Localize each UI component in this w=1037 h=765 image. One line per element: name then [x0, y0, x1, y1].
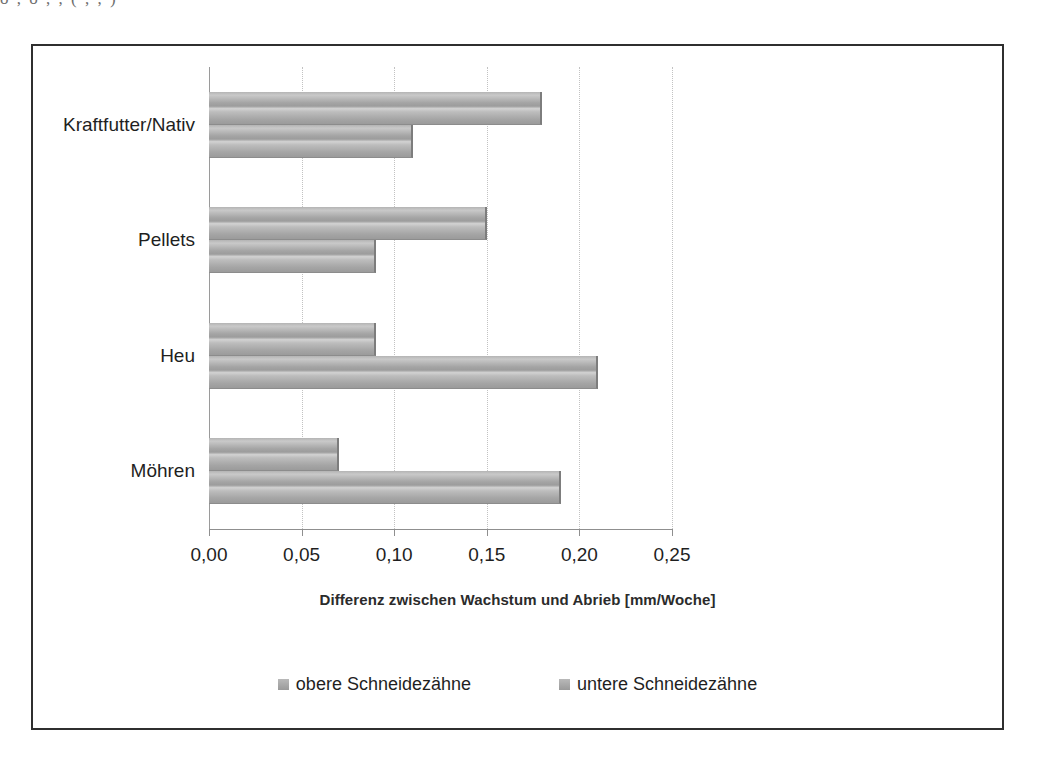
category-label: Kraftfutter/Nativ	[63, 115, 195, 134]
bar	[209, 471, 561, 504]
x-tick-mark	[672, 529, 673, 536]
bar	[209, 125, 413, 158]
scanned-page-residue: o , o , , ( , , )	[0, 0, 1037, 26]
x-tick-mark	[579, 529, 580, 536]
bar	[209, 207, 487, 240]
x-tick-mark	[209, 529, 210, 536]
legend-label: untere Schneidezähne	[577, 674, 757, 695]
x-tick-label: 0,20	[561, 544, 598, 566]
chart-legend: obere Schneidezähneuntere Schneidezähne	[33, 674, 1002, 695]
residue-text: o , o , , ( , , )	[0, 0, 118, 9]
x-tick-mark	[487, 529, 488, 536]
x-tick-label: 0,00	[191, 544, 228, 566]
bar	[209, 438, 339, 471]
category-label: Heu	[160, 346, 195, 365]
category-label: Pellets	[138, 230, 195, 249]
x-tick-mark	[302, 529, 303, 536]
legend-swatch-icon	[278, 679, 289, 690]
bar	[209, 323, 376, 356]
legend-item: obere Schneidezähne	[278, 674, 471, 695]
legend-swatch-icon	[559, 679, 570, 690]
bar	[209, 240, 376, 273]
x-tick-mark	[394, 529, 395, 536]
x-tick-label: 0,15	[468, 544, 505, 566]
legend-label: obere Schneidezähne	[296, 674, 471, 695]
bar	[209, 92, 542, 125]
chart-frame: Kraftfutter/NativPelletsHeuMöhren 0,000,…	[31, 44, 1004, 730]
category-label: Möhren	[131, 461, 195, 480]
legend-item: untere Schneidezähne	[559, 674, 757, 695]
bar	[209, 356, 598, 389]
x-tick-label: 0,25	[654, 544, 691, 566]
x-axis-line	[209, 529, 672, 530]
x-axis-title: Differenz zwischen Wachstum und Abrieb […	[33, 591, 1002, 608]
x-tick-label: 0,10	[376, 544, 413, 566]
x-tick-label: 0,05	[283, 544, 320, 566]
